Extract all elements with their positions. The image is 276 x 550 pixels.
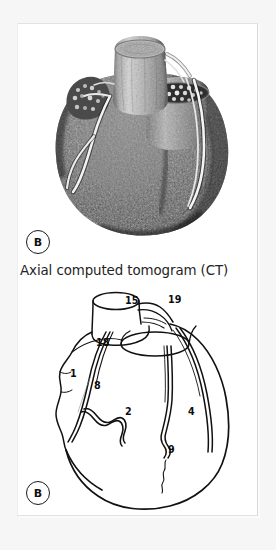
diagram-label: 19 (168, 295, 181, 305)
panel-letter-top: B (26, 230, 50, 254)
diagram-label: 1 (70, 369, 77, 379)
heart-3d-ct-reconstruction-graphic (18, 24, 257, 242)
diagram-label: 9 (168, 445, 175, 455)
panel-letter-bottom: B (26, 481, 50, 505)
heart-coronary-line-diagram-graphic (18, 288, 257, 514)
diagram-label: 4 (188, 407, 195, 417)
diagram-label: 18 (96, 338, 109, 348)
ct-photograph (18, 24, 257, 242)
figure-caption: Axial computed tomogram (CT) (20, 263, 256, 278)
line-diagram: 15 19 18 1 8 2 4 9 (18, 288, 257, 514)
figure-page: B Axial computed tomogram (CT) (0, 0, 276, 550)
diagram-label: 15 (125, 296, 138, 306)
diagram-label: 8 (94, 381, 101, 391)
diagram-label: 2 (125, 407, 132, 417)
